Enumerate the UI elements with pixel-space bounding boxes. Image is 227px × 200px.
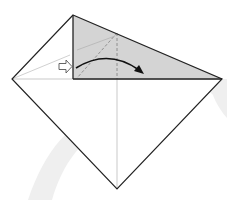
origami-diagram: [0, 0, 227, 200]
